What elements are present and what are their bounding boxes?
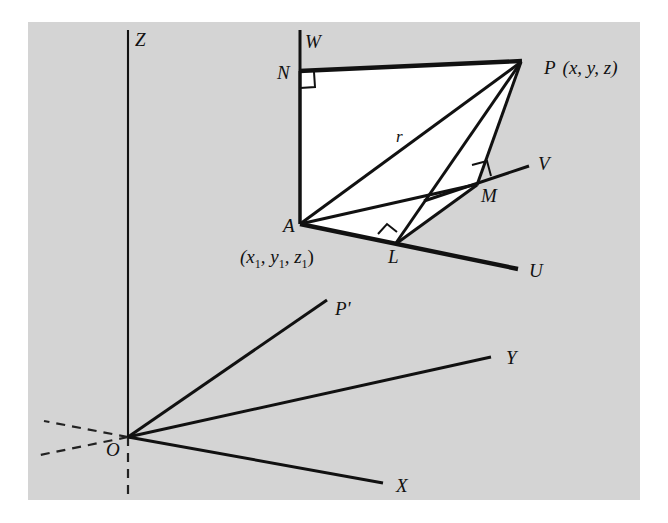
axis-label-Y: Y (506, 347, 519, 368)
dashed-x-negative (44, 421, 128, 437)
point-A-coordinate-triple: (x1, y1, z1) (240, 246, 314, 271)
point-P-letter: P (543, 57, 556, 78)
point-P-coordinate-triple: (x, y, z) (563, 57, 618, 79)
coord-open-x: (x (240, 246, 255, 268)
point-P-with-coordinates: P(x, y, z) (543, 57, 617, 79)
point-label-L: L (387, 246, 399, 267)
axis-label-X: X (395, 475, 409, 496)
point-label-P-prime: P' (334, 298, 352, 319)
geometry-diagram: Z X Y W U V P' N L M O A r P(x, y, z) (x… (0, 0, 668, 523)
coord-mid-z: , z (285, 246, 303, 267)
axis-line-X (128, 437, 383, 483)
figure-canvas: Z X Y W U V P' N L M O A r P(x, y, z) (x… (0, 0, 668, 523)
point-label-M: M (480, 185, 498, 206)
axis-label-V: V (538, 153, 552, 174)
point-label-O: O (106, 439, 120, 460)
axis-label-U: U (529, 260, 544, 281)
coord-mid-y: , y (261, 246, 280, 267)
coord-close-paren: ) (308, 246, 314, 268)
axis-line-Y (128, 357, 491, 437)
point-label-A: A (281, 215, 295, 236)
radius-label-r: r (396, 127, 403, 146)
axis-label-Z: Z (135, 29, 146, 50)
point-label-N: N (276, 62, 291, 83)
axis-label-W: W (305, 31, 323, 52)
